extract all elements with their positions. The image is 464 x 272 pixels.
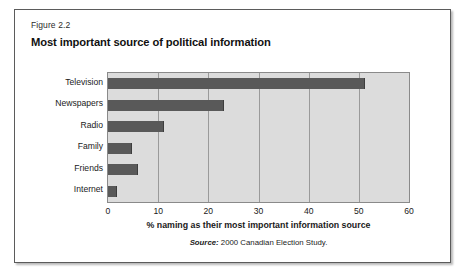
bar-row — [108, 95, 409, 117]
bar-row — [108, 181, 409, 203]
x-tick-20: 20 — [204, 206, 214, 216]
y-axis-label-television: Television — [17, 77, 103, 87]
bar-row — [108, 116, 409, 138]
y-axis-label-newspapers: Newspapers — [17, 98, 103, 108]
x-axis-title: % naming as their most important informa… — [107, 220, 410, 230]
bar-row — [108, 138, 409, 160]
y-axis-label-family: Family — [17, 141, 103, 151]
bar-chart: TelevisionNewspapersRadioFamilyFriendsIn… — [15, 10, 452, 264]
x-axis-tick-labels: 0102030405060 — [107, 206, 410, 220]
x-tick-10: 10 — [153, 206, 163, 216]
x-tick-50: 50 — [354, 206, 364, 216]
bar-row — [108, 159, 409, 181]
bar-internet[interactable] — [108, 186, 117, 197]
x-tick-60: 60 — [404, 206, 414, 216]
bar-newspapers[interactable] — [108, 100, 224, 111]
y-axis-category-labels: TelevisionNewspapersRadioFamilyFriendsIn… — [15, 72, 103, 203]
figure-box: Figure 2.2 Most important source of poli… — [14, 9, 451, 263]
bar-television[interactable] — [108, 78, 365, 89]
bar-radio[interactable] — [108, 121, 164, 132]
x-tick-40: 40 — [304, 206, 314, 216]
source-note: Source: 2000 Canadian Election Study. — [107, 238, 410, 247]
y-axis-label-radio: Radio — [17, 120, 103, 130]
x-tick-30: 30 — [254, 206, 264, 216]
bar-friends[interactable] — [108, 164, 138, 175]
source-prefix: Source: — [190, 238, 219, 247]
y-axis-label-friends: Friends — [17, 163, 103, 173]
source-text: 2000 Canadian Election Study. — [221, 238, 328, 247]
plot-area — [107, 72, 410, 203]
y-axis-label-internet: Internet — [17, 184, 103, 194]
bar-family[interactable] — [108, 143, 132, 154]
bar-row — [108, 73, 409, 95]
x-tick-0: 0 — [106, 206, 111, 216]
